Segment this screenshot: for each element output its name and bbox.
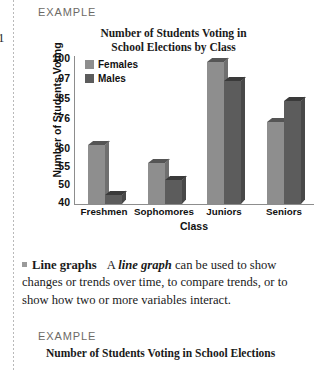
example-label-bottom: EXAMPLE	[38, 330, 96, 342]
bar-group-juniors	[195, 56, 255, 204]
bar-group-seniors	[254, 56, 314, 204]
y-tick-label: 50	[44, 178, 70, 190]
bar-group-freshmen	[75, 56, 135, 204]
bar-face	[88, 145, 105, 204]
bar-side	[241, 77, 245, 204]
bar-chart: Number of Students Voting 100 97 85 76 6…	[20, 56, 320, 226]
x-tick-label-sophomores: Sophomores	[134, 206, 194, 220]
y-tick-label: 55	[44, 160, 70, 172]
example-label-top: EXAMPLE	[38, 6, 96, 18]
figure-title-top-line1: Number of Students Voting in	[36, 26, 311, 40]
x-tick-label-juniors: Juniors	[194, 206, 254, 220]
figure-title-top-line2: School Elections by Class	[36, 40, 311, 54]
plot-area: Females Males	[74, 56, 314, 205]
bar-females-seniors	[267, 118, 284, 204]
bar-groups	[75, 56, 314, 204]
x-axis-tick-labels: Freshmen Sophomores Juniors Seniors	[74, 206, 314, 220]
bar-females-juniors	[207, 58, 224, 204]
bar-males-seniors	[284, 97, 301, 204]
bar-females-sophomores	[148, 159, 165, 204]
bar-side	[182, 176, 186, 204]
bar-females-freshmen	[88, 141, 105, 204]
y-tick-label: 97	[44, 72, 70, 84]
page-folio-number: 1	[0, 30, 5, 46]
y-tick-label: 85	[44, 92, 70, 104]
x-axis-title: Class	[74, 220, 314, 232]
figure-title-top: Number of Students Voting in School Elec…	[36, 26, 311, 54]
lesson-body: Line graphsA line graph can be used to s…	[22, 244, 312, 322]
bar-face	[105, 195, 122, 204]
bar-face	[165, 180, 182, 204]
textbook-page: 1 EXAMPLE Number of Students Voting in S…	[0, 0, 323, 370]
square-bullet-icon	[22, 262, 27, 267]
lesson-term: Line graphs	[32, 258, 97, 272]
y-tick-label: 40	[44, 196, 70, 208]
bar-side	[122, 191, 126, 204]
y-axis-tick-labels: 100 97 85 76 60 55 50 40	[44, 56, 70, 204]
bar-face	[284, 101, 301, 204]
bar-males-juniors	[224, 77, 241, 204]
bar-side	[301, 97, 305, 204]
bar-face	[224, 81, 241, 204]
margin-dotted-rule	[13, 0, 14, 370]
inline-italic-term: line graph	[118, 258, 172, 272]
bar-group-sophomores	[135, 56, 195, 204]
x-tick-label-seniors: Seniors	[254, 206, 314, 220]
y-tick-label: 60	[44, 142, 70, 154]
bar-face	[148, 163, 165, 204]
sentence-lead: A	[107, 258, 115, 272]
bar-face	[207, 62, 224, 204]
y-tick-label: 100	[44, 52, 70, 64]
bar-males-sophomores	[165, 176, 182, 204]
bar-males-freshmen	[105, 191, 122, 204]
bar-face	[267, 122, 284, 204]
line-graphs-paragraph: Line graphsA line graph can be used to s…	[22, 257, 312, 310]
figure-title-bottom: Number of Students Voting in School Elec…	[46, 347, 316, 359]
y-tick-label: 76	[44, 112, 70, 124]
x-tick-label-freshmen: Freshmen	[74, 206, 134, 220]
